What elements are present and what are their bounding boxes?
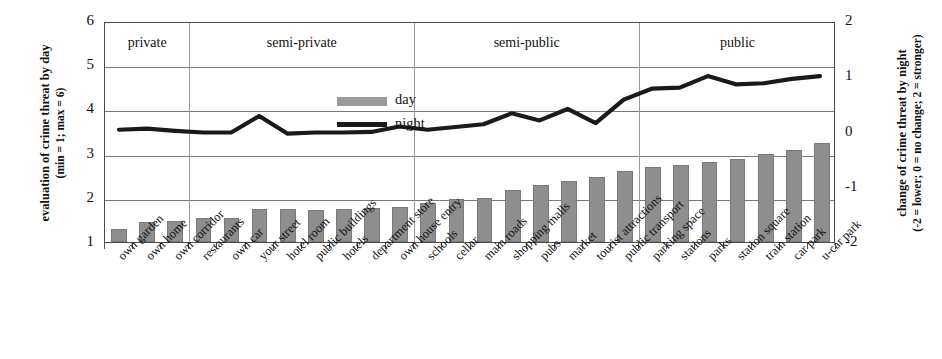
legend-bar-swatch-icon — [337, 97, 387, 106]
group-label-semi-private: semi-private — [232, 35, 372, 51]
y-tick-left-3: 3 — [68, 145, 94, 162]
y-tick-left-1: 1 — [68, 233, 94, 250]
y-axis-left-title-line2: (min = 1; max = 6) — [53, 18, 68, 248]
legend-line-swatch-icon — [337, 122, 387, 127]
y-tick-left-4: 4 — [68, 100, 94, 117]
chart-legend: day night — [337, 91, 487, 135]
y-axis-left-title-line1: evaluation of crime threat by day — [38, 18, 53, 248]
y-tick-right-neg1: -1 — [845, 178, 871, 195]
x-axis-labels: own gardenown homeown corridorrestaurant… — [0, 249, 942, 359]
y-tick-left-6: 6 — [68, 12, 94, 29]
y-tick-right-0: 0 — [845, 123, 871, 140]
y-tick-right-2: 2 — [845, 12, 871, 29]
group-label-private: private — [77, 35, 217, 51]
legend-label-night: night — [395, 115, 425, 132]
group-label-semi-public: semi-public — [457, 35, 597, 51]
y-tick-right-1: 1 — [845, 67, 871, 84]
y-axis-right-title-line1: change of crime threat by night — [895, 18, 910, 248]
y-axis-left-title: evaluation of crime threat by day (min =… — [38, 18, 68, 248]
legend-label-day: day — [395, 91, 416, 108]
y-axis-right-title: change of crime threat by night (-2 = lo… — [895, 18, 925, 248]
y-tick-left-2: 2 — [68, 189, 94, 206]
crime-threat-chart: evaluation of crime threat by day (min =… — [0, 0, 942, 359]
y-axis-right-title-line2: (-2 = lower; 0 = no change; 2 = stronger… — [910, 18, 925, 248]
group-label-public: public — [668, 35, 808, 51]
y-tick-left-5: 5 — [68, 56, 94, 73]
